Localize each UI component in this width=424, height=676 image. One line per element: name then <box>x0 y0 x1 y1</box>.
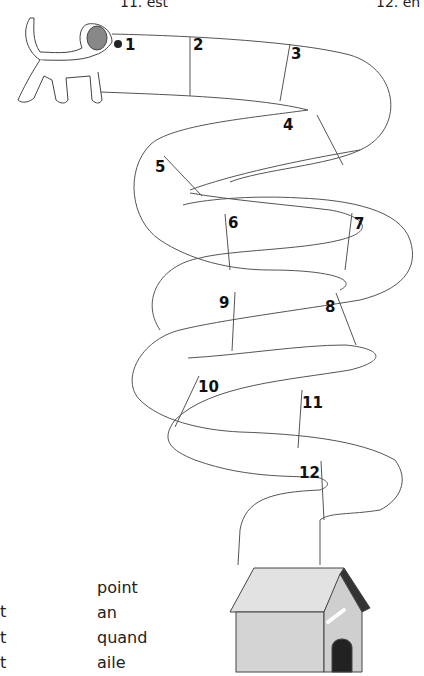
left-word-2: t <box>0 630 6 646</box>
word-quand: quand <box>97 630 147 646</box>
square-7: 7 <box>354 217 364 232</box>
square-11: 11 <box>302 396 323 411</box>
square-4: 4 <box>283 118 293 133</box>
square-5: 5 <box>155 160 165 175</box>
square-1: 1 <box>125 38 135 53</box>
doghouse-illustration <box>230 568 370 672</box>
square-12: 12 <box>299 466 320 481</box>
square-3: 3 <box>291 47 301 62</box>
square-9: 9 <box>219 296 229 311</box>
left-word-3: t <box>0 655 6 671</box>
square-2: 2 <box>193 38 203 53</box>
word-an: an <box>97 605 117 621</box>
word-aile: aile <box>97 655 126 671</box>
game-path <box>0 0 424 676</box>
dog-illustration <box>18 18 122 103</box>
left-word-1: t <box>0 604 6 620</box>
square-10: 10 <box>198 380 219 395</box>
square-8: 8 <box>325 300 335 315</box>
square-6: 6 <box>228 216 238 231</box>
word-point: point <box>97 580 138 596</box>
